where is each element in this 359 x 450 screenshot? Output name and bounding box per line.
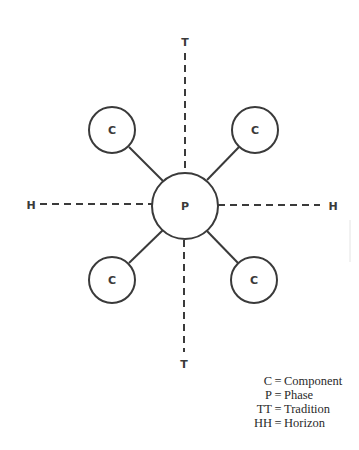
legend-item-component: C = Component: [236, 374, 346, 388]
legend-key: P: [236, 388, 272, 402]
legend-value: Component: [284, 374, 342, 388]
component-node-upper-right: C: [232, 107, 278, 153]
connector-lower-left: [129, 230, 163, 263]
legend-item-horizon: HH = Horizon: [236, 416, 346, 430]
tradition-label-top: T: [181, 36, 189, 49]
legend-equals: =: [272, 402, 284, 416]
connector-upper-left: [129, 147, 163, 181]
component-label: C: [108, 274, 116, 287]
legend-item-phase: P = Phase: [236, 388, 346, 402]
component-label: C: [250, 274, 258, 287]
component-node-lower-right: C: [231, 257, 277, 303]
legend-item-tradition: TT = Tradition: [236, 402, 346, 416]
connector-upper-right: [207, 147, 239, 180]
tradition-label-bottom: T: [180, 358, 188, 371]
connector-lower-right: [207, 231, 238, 263]
legend: C = Component P = Phase TT = Tradition H…: [236, 374, 346, 430]
component-node-upper-left: C: [89, 107, 135, 153]
horizon-label-left: H: [26, 199, 35, 212]
legend-key: C: [236, 374, 272, 388]
legend-value: Tradition: [284, 402, 330, 416]
horizon-label-right: H: [328, 200, 337, 213]
component-node-lower-left: C: [89, 257, 135, 303]
legend-value: Phase: [284, 388, 313, 402]
phase-node-label: P: [181, 200, 189, 213]
legend-equals: =: [272, 374, 284, 388]
legend-key: TT: [236, 402, 272, 416]
phase-node: P: [152, 173, 218, 239]
legend-value: Horizon: [284, 416, 325, 430]
legend-key: HH: [236, 416, 272, 430]
component-label: C: [108, 124, 116, 137]
component-label: C: [251, 124, 259, 137]
legend-equals: =: [272, 416, 284, 430]
legend-equals: =: [272, 388, 284, 402]
